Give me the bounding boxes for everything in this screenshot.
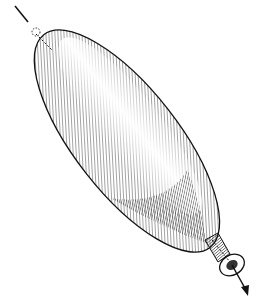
balloon-illustration — [0, 0, 262, 300]
axis-line-top — [15, 6, 28, 22]
axis-origin-marker — [32, 28, 40, 36]
balloon-neck — [205, 233, 248, 280]
